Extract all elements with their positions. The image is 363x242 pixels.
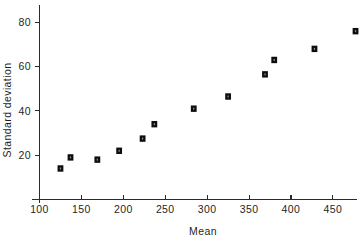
data-point-highlight xyxy=(264,73,265,75)
x-axis-title: Mean xyxy=(189,225,217,237)
y-tick-label: 20 xyxy=(19,149,31,161)
data-point xyxy=(58,165,64,171)
data-point-highlight xyxy=(154,123,155,125)
data-point xyxy=(271,57,277,63)
data-point-highlight xyxy=(119,150,120,152)
data-point-highlight xyxy=(70,156,71,158)
data-point-highlight xyxy=(60,167,61,169)
x-tick-label: 250 xyxy=(156,203,175,215)
y-tick-group: 20406080 xyxy=(19,16,40,161)
data-point xyxy=(94,156,100,162)
x-tick-label: 400 xyxy=(282,203,301,215)
plot-canvas: 20406080 100150200250300350400450 Mean S… xyxy=(0,0,363,242)
data-point xyxy=(225,93,231,99)
y-tick-label: 80 xyxy=(19,16,31,28)
data-point-highlight xyxy=(274,59,275,61)
x-tick-label: 150 xyxy=(72,203,91,215)
data-point xyxy=(191,105,197,111)
x-tick-label: 300 xyxy=(198,203,217,215)
scatter-plot-figure: 20406080 100150200250300350400450 Mean S… xyxy=(0,0,363,242)
data-point xyxy=(151,121,157,127)
data-point xyxy=(353,28,359,34)
data-point-highlight xyxy=(193,108,194,110)
data-point-highlight xyxy=(355,30,356,32)
data-point-highlight xyxy=(97,159,98,161)
data-point-highlight xyxy=(314,48,315,50)
x-tick-label: 350 xyxy=(240,203,259,215)
data-point xyxy=(140,135,146,141)
y-tick-label: 60 xyxy=(19,60,31,72)
x-tick-group: 100150200250300350400450 xyxy=(30,195,342,216)
y-tick-label: 40 xyxy=(19,105,31,117)
y-axis-title: Standard deviation xyxy=(1,63,13,158)
x-tick-label: 100 xyxy=(30,203,49,215)
data-point xyxy=(312,46,318,52)
data-point-highlight xyxy=(228,96,229,98)
axes-group xyxy=(32,5,357,203)
data-point xyxy=(116,148,122,154)
data-point-highlight xyxy=(142,138,143,140)
x-tick-label: 450 xyxy=(324,203,343,215)
x-tick-label: 200 xyxy=(114,203,133,215)
data-point-group xyxy=(58,28,359,172)
data-point xyxy=(68,154,74,160)
data-point xyxy=(262,71,268,77)
